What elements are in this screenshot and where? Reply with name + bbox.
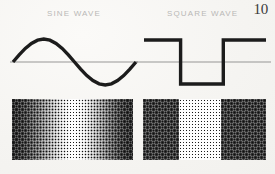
sine-halftone-strip: [12, 99, 133, 160]
square-halftone-strip: [143, 99, 266, 160]
square-wave-figure: [133, 28, 275, 94]
square-wave-caption: SQUARE WAVE: [167, 9, 238, 18]
sine-wave-caption: SINE WAVE: [47, 9, 101, 18]
page-number: 10: [254, 2, 268, 17]
figure-page: SINE WAVE SQUARE WAVE 10: [0, 0, 275, 174]
sine-wave-figure: [0, 28, 142, 94]
square-halftone-canvas: [143, 99, 266, 160]
sine-halftone-canvas: [12, 99, 133, 160]
